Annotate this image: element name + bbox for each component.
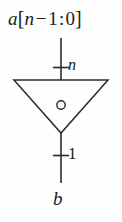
output-bus-width-label: 1 xyxy=(68,145,77,162)
input-msb-variable: n xyxy=(25,8,35,29)
input-bus-width-label: n xyxy=(68,57,76,73)
logic-gate-diagram: a[n−1:0] n 1 b xyxy=(0,0,122,222)
inversion-bubble-icon xyxy=(57,101,65,109)
input-bracket-close: ] xyxy=(75,7,82,29)
gate-triangle-icon xyxy=(14,80,108,133)
input-minus-operator: − xyxy=(34,8,48,29)
input-bracket-open: [ xyxy=(18,7,25,29)
input-msb-offset: 1 xyxy=(48,8,58,29)
input-signal-label: a[n−1:0] xyxy=(8,8,82,28)
input-signal-name: a xyxy=(8,8,18,29)
input-lsb: 0 xyxy=(65,8,75,29)
output-signal-label: b xyxy=(53,189,63,208)
